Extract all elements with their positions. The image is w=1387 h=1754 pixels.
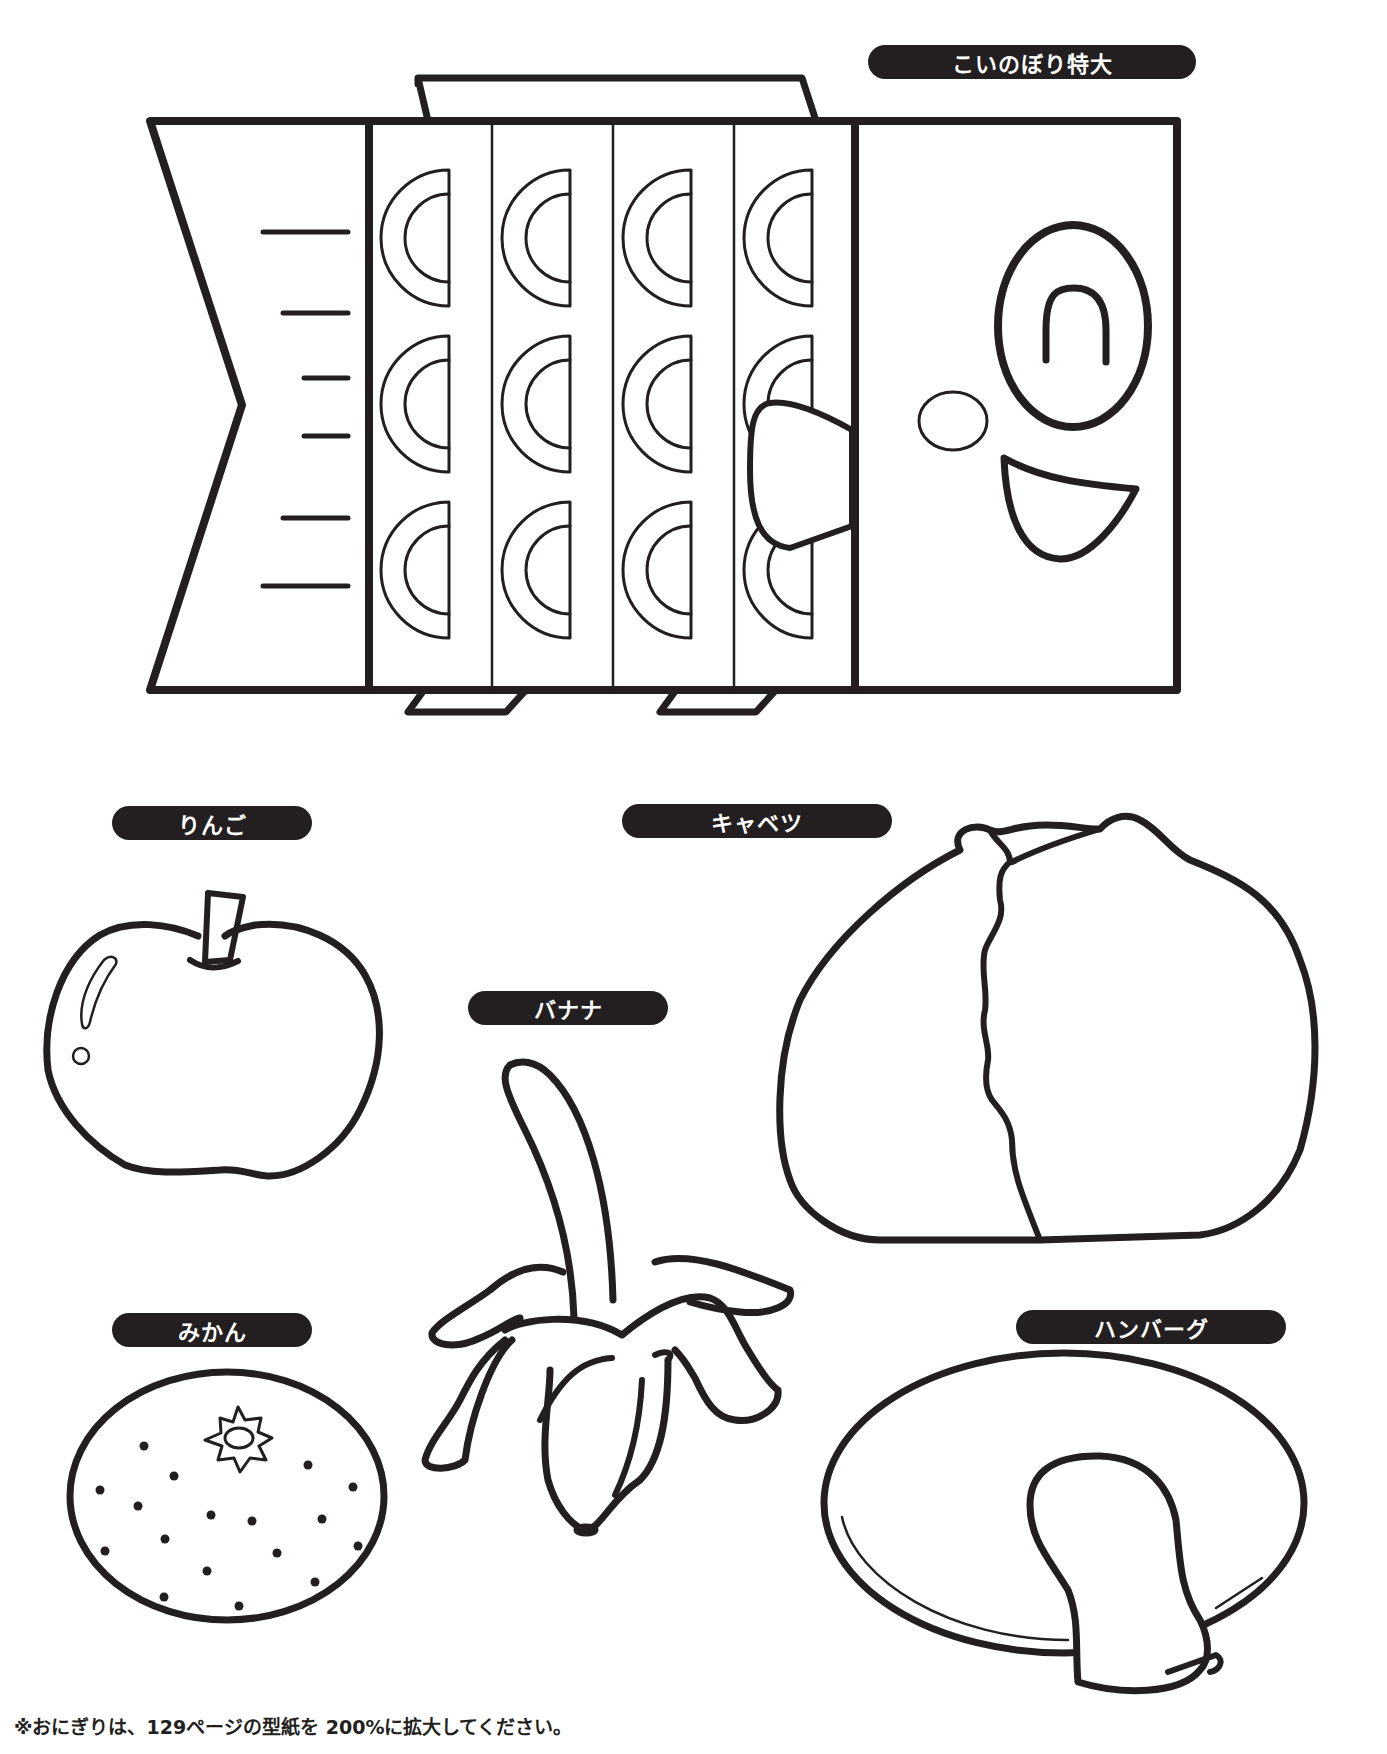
- banana-icon: [425, 1062, 791, 1534]
- apple-stem: [205, 893, 243, 962]
- koinobori-pectoral-fin: [750, 403, 852, 548]
- apple-highlight: [81, 957, 116, 1028]
- coloring-templates: [0, 0, 1387, 1754]
- hamburg-icon: [824, 1353, 1304, 1691]
- footnote: ※おにぎりは、129ページの型紙を 200%に拡大してください。: [14, 1712, 572, 1739]
- koinobori-cheek: [919, 392, 987, 450]
- cabbage-icon: [780, 816, 1315, 1240]
- cabbage-outline: [780, 816, 1315, 1240]
- koinobori-icon: [150, 78, 1177, 712]
- koinobori-mouth: [1004, 458, 1136, 559]
- koinobori-eye: [998, 225, 1148, 427]
- apple-highlight-dot: [73, 1048, 89, 1064]
- banana-fruit: [505, 1062, 613, 1318]
- apple-icon: [47, 893, 380, 1176]
- mikan-body: [70, 1372, 384, 1620]
- koinobori-top-fin: [418, 78, 816, 121]
- cabbage-leaf-line: [983, 830, 1040, 1240]
- banana-peel-left: [432, 1267, 563, 1345]
- mikan-dots: [96, 1442, 363, 1611]
- mikan-icon: [70, 1372, 384, 1620]
- mikan-calyx: [205, 1407, 272, 1472]
- koinobori-scales: [381, 170, 812, 638]
- koinobori-eye-arc: [1046, 288, 1106, 362]
